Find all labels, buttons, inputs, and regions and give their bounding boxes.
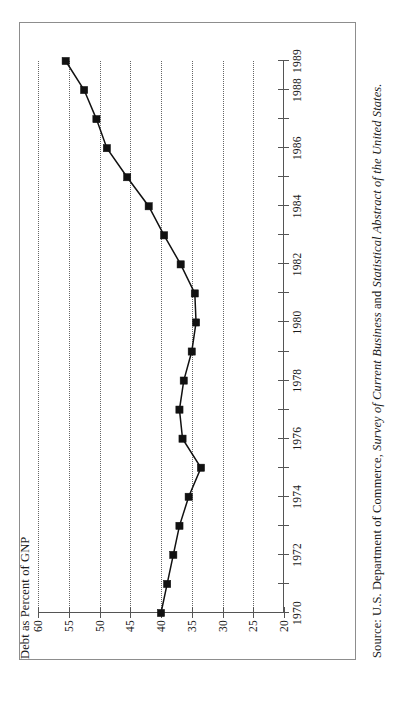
data-point-1985: [124, 174, 131, 181]
data-point-1981: [191, 290, 198, 297]
source-caption-container: Source: U.S. Department of Commerce, Sur…: [362, 24, 392, 658]
source-caption: Source: U.S. Department of Commerce, Sur…: [370, 84, 385, 659]
year-tick-label-1976: 1976: [291, 427, 303, 451]
source-conjunction: and: [370, 287, 384, 312]
value-tick-label-20: 20: [278, 620, 290, 632]
year-tick-label-1982: 1982: [291, 252, 303, 276]
value-tick-label-30: 30: [217, 620, 229, 632]
source-title-survey: Survey of Current Business: [370, 312, 384, 451]
data-point-1976: [179, 435, 186, 442]
data-point-1978: [180, 377, 187, 384]
data-point-1977: [176, 406, 183, 413]
year-tick-label-1989: 1989: [291, 49, 303, 73]
year-tick-label-1972: 1972: [291, 543, 303, 567]
source-prefix: Source: U.S. Department of Commerce,: [370, 451, 384, 658]
value-tick-label-40: 40: [155, 620, 167, 632]
chart-stage: Debt as Percent of GNP 60555045403530252…: [20, 23, 355, 659]
data-point-1984: [145, 203, 152, 210]
data-point-1987: [93, 116, 100, 123]
value-tick-label-55: 55: [63, 620, 75, 632]
data-point-1980: [192, 319, 199, 326]
data-point-1973: [176, 522, 183, 529]
page-root: Debt as Percent of GNP 60555045403530252…: [0, 0, 399, 720]
year-tick-label-1970: 1970: [291, 601, 303, 625]
source-title-abstract: Statistical Abstract of the United State…: [370, 84, 384, 288]
year-tick-label-1980: 1980: [291, 311, 303, 335]
data-point-1983: [160, 232, 167, 239]
data-point-1971: [164, 580, 171, 587]
data-point-1979: [188, 348, 195, 355]
data-point-1970: [157, 609, 164, 616]
data-point-1989: [62, 57, 69, 64]
year-tick-label-1974: 1974: [291, 485, 303, 509]
data-point-1975: [197, 464, 204, 471]
year-tick-label-1986: 1986: [291, 136, 303, 160]
year-tick-label-1978: 1978: [291, 369, 303, 393]
value-tick-label-25: 25: [247, 620, 259, 632]
rotated-chart-container: Debt as Percent of GNP 60555045403530252…: [20, 23, 355, 659]
value-tick-label-60: 60: [32, 620, 44, 632]
value-tick-label-35: 35: [186, 620, 198, 632]
data-point-1986: [103, 145, 110, 152]
year-tick-label-1988: 1988: [291, 78, 303, 102]
data-point-1974: [185, 493, 192, 500]
series-line: [66, 61, 201, 613]
data-point-1988: [81, 86, 88, 93]
year-tick-label-1984: 1984: [291, 194, 303, 218]
axis-title: Debt as Percent of GNP: [20, 537, 33, 659]
value-tick-label-50: 50: [94, 620, 106, 632]
plot-area: 605550454035302520 197019721974197619781…: [38, 61, 284, 613]
data-point-1972: [170, 551, 177, 558]
data-point-1982: [177, 261, 184, 268]
value-tick-label-45: 45: [124, 620, 136, 632]
data-series: [38, 61, 284, 613]
